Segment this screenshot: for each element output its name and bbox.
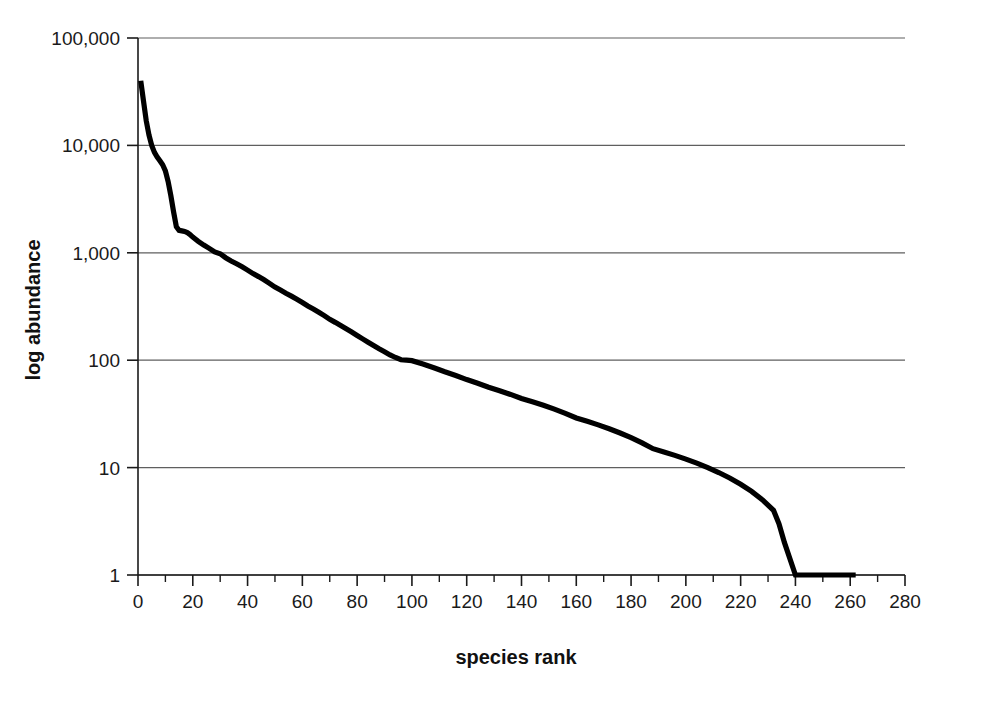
x-tick-label-80: 80 bbox=[347, 591, 368, 612]
y-tick-label-100: 100 bbox=[88, 350, 120, 371]
x-tick-label-180: 180 bbox=[615, 591, 647, 612]
chart-canvas: 1101001,00010,000100,000 020406080100120… bbox=[0, 0, 1002, 701]
y-tick-labels-group: 1101001,00010,000100,000 bbox=[51, 28, 120, 586]
x-tick-label-200: 200 bbox=[670, 591, 702, 612]
x-axis-title: species rank bbox=[455, 646, 577, 668]
x-tick-label-0: 0 bbox=[133, 591, 144, 612]
x-tick-label-220: 220 bbox=[725, 591, 757, 612]
y-tick-label-10: 10 bbox=[99, 458, 120, 479]
y-tick-label-1: 1 bbox=[109, 565, 120, 586]
y-tick-label-100000: 100,000 bbox=[51, 28, 120, 49]
x-tick-label-140: 140 bbox=[506, 591, 538, 612]
x-tick-label-100: 100 bbox=[396, 591, 428, 612]
x-tick-label-260: 260 bbox=[834, 591, 866, 612]
x-tick-label-280: 280 bbox=[889, 591, 921, 612]
x-tick-label-160: 160 bbox=[560, 591, 592, 612]
y-tick-label-1000: 1,000 bbox=[72, 243, 120, 264]
x-tick-label-240: 240 bbox=[780, 591, 812, 612]
x-major-ticks-group bbox=[138, 575, 905, 586]
x-tick-label-120: 120 bbox=[451, 591, 483, 612]
y-axis-title: log abundance bbox=[22, 239, 44, 380]
rank-abundance-curve bbox=[141, 81, 856, 575]
y-major-ticks-group bbox=[127, 38, 138, 575]
rank-abundance-figure: 1101001,00010,000100,000 020406080100120… bbox=[0, 0, 1002, 701]
x-tick-label-40: 40 bbox=[237, 591, 258, 612]
x-tick-labels-group: 020406080100120140160180200220240260280 bbox=[133, 591, 921, 612]
y-tick-label-10000: 10,000 bbox=[62, 135, 120, 156]
x-tick-label-20: 20 bbox=[182, 591, 203, 612]
x-tick-label-60: 60 bbox=[292, 591, 313, 612]
gridlines-group bbox=[138, 38, 905, 575]
